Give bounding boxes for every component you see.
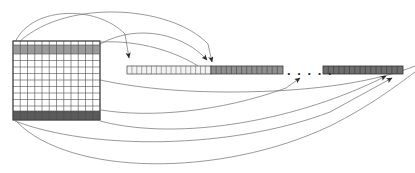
continuation-ellipsis: . . . . .: [287, 64, 333, 77]
first-row-vector-body: [127, 66, 211, 74]
second-row-vector: [211, 66, 283, 74]
diagram-svg: [0, 0, 415, 173]
connector-matrix-right-to-vector-1: [101, 42, 198, 66]
first-row-vector: [127, 66, 211, 74]
connector-toprow-right-to-vector-2: [100, 33, 207, 60]
connector-to-ellipsis-region: [101, 78, 300, 113]
diagram-canvas: . . . . .: [0, 0, 415, 173]
last-row-vector-body: [323, 66, 403, 74]
source-matrix: [13, 41, 100, 120]
last-row-vector: [323, 66, 403, 74]
